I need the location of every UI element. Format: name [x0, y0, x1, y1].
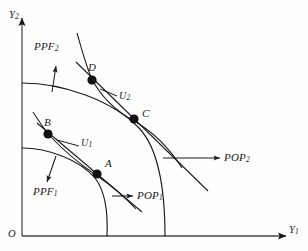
point-c-marker — [129, 114, 138, 123]
point-c-label: C — [142, 108, 150, 119]
x-axis-label: Y1 — [289, 225, 299, 236]
point-d-label: D — [88, 62, 96, 73]
x-axis-label-sub: 1 — [295, 227, 299, 236]
point-a-label: A — [105, 158, 112, 169]
ppf1-label: PPF1 — [33, 186, 58, 198]
point-b-marker — [43, 129, 52, 138]
ppf1-label-text: PPF — [33, 185, 54, 197]
pop1-label-text: POP — [137, 189, 159, 201]
ppf2-label: PPF2 — [34, 41, 59, 53]
ppf1-label-sub: 1 — [54, 189, 58, 198]
pop1-label-sub: 1 — [159, 193, 163, 202]
ppf2-leader-arrow — [52, 66, 56, 92]
ppf-diagram: Y2 Y1 O PPF2 PPF1 U2 U1 POP1 POP2 D C B … — [0, 0, 308, 251]
y-axis-label: Y2 — [9, 10, 19, 21]
u1-label-sub: 1 — [88, 140, 92, 149]
point-b-label: B — [44, 117, 51, 128]
ppf2-curve — [22, 83, 165, 236]
axis-lines — [22, 18, 286, 236]
u2-label: U2 — [119, 91, 130, 102]
pop2-label: POP2 — [224, 152, 250, 164]
pop1-label: POP1 — [137, 190, 163, 202]
u2-label-sub: 2 — [126, 93, 130, 102]
pop1-line — [37, 123, 142, 212]
point-d-marker — [87, 75, 96, 84]
ppf1-leader-arrow — [47, 156, 56, 182]
point-a-marker — [92, 169, 101, 178]
u1-label: U1 — [81, 138, 92, 149]
pop2-label-text: POP — [224, 151, 246, 163]
y-axis-label-sub: 2 — [15, 12, 19, 21]
pop2-label-sub: 2 — [246, 155, 250, 164]
origin-label: O — [8, 229, 16, 240]
ppf2-label-sub: 2 — [55, 44, 59, 53]
ppf2-label-text: PPF — [34, 40, 55, 52]
